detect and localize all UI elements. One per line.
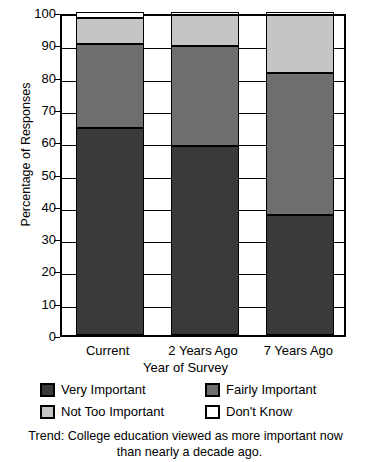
- y-tick-label: 60: [22, 136, 56, 149]
- legend-label: Don't Know: [226, 404, 292, 419]
- chart-caption: Trend: College education viewed as more …: [0, 428, 371, 460]
- bar-segment-fairly-important[interactable]: [266, 73, 334, 215]
- bar-segment-very-important[interactable]: [266, 215, 334, 335]
- legend-item-don-t-know[interactable]: Don't Know: [205, 404, 292, 419]
- bar-2-years-ago[interactable]: [171, 12, 239, 335]
- legend-swatch-icon: [40, 405, 55, 419]
- y-tick-mark: [54, 337, 60, 338]
- y-tick-label: 90: [22, 39, 56, 52]
- stacked-bar-chart-figure: Percentage of Responses 0102030405060708…: [0, 0, 371, 462]
- y-tick-label: 10: [22, 298, 56, 311]
- legend-label: Not Too Important: [61, 404, 164, 419]
- x-tick-label: 7 Years Ago: [238, 343, 358, 358]
- legend-swatch-icon: [40, 383, 55, 397]
- y-tick-label: 30: [22, 233, 56, 246]
- bar-segment-fairly-important[interactable]: [76, 44, 144, 128]
- y-tick-label: 40: [22, 201, 56, 214]
- y-tick-label: 20: [22, 265, 56, 278]
- plot-frame: [60, 14, 346, 337]
- bar-7-years-ago[interactable]: [266, 12, 334, 335]
- bar-segment-very-important[interactable]: [76, 128, 144, 335]
- bar-segment-not-too-important[interactable]: [266, 15, 334, 73]
- y-tick-label: 0: [22, 330, 56, 343]
- legend-swatch-icon: [205, 405, 220, 419]
- caption-line-2: than nearly a decade ago.: [0, 444, 371, 460]
- y-tick-label: 70: [22, 104, 56, 117]
- bar-segment-not-too-important[interactable]: [171, 15, 239, 46]
- bar-segment-don-t-know[interactable]: [266, 12, 334, 15]
- y-axis-tick-labels: 0102030405060708090100: [20, 0, 56, 345]
- plot-region: Percentage of Responses 0102030405060708…: [0, 0, 371, 345]
- bar-segment-fairly-important[interactable]: [171, 46, 239, 146]
- y-tick-label: 100: [22, 7, 56, 20]
- legend-label: Fairly Important: [226, 382, 316, 397]
- y-tick-label: 80: [22, 72, 56, 85]
- caption-line-1: Trend: College education viewed as more …: [0, 428, 371, 444]
- x-axis-title: Year of Survey: [0, 360, 371, 375]
- y-tick-label: 50: [22, 169, 56, 182]
- bar-segment-don-t-know[interactable]: [171, 12, 239, 15]
- legend-item-fairly-important[interactable]: Fairly Important: [205, 382, 316, 397]
- legend-item-not-too-important[interactable]: Not Too Important: [40, 404, 164, 419]
- bar-segment-don-t-know[interactable]: [76, 12, 144, 18]
- bar-current[interactable]: [76, 12, 144, 335]
- bar-segment-not-too-important[interactable]: [76, 18, 144, 44]
- bar-segment-very-important[interactable]: [171, 146, 239, 335]
- legend-item-very-important[interactable]: Very Important: [40, 382, 146, 397]
- legend-label: Very Important: [61, 382, 146, 397]
- chart-legend: Very ImportantFairly ImportantNot Too Im…: [0, 382, 371, 426]
- legend-swatch-icon: [205, 383, 220, 397]
